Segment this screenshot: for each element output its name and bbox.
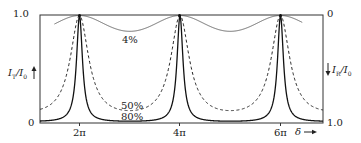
y-axis-label-left: IT/I0 xyxy=(8,68,27,82)
x-tick-6pi: 6π xyxy=(274,128,287,138)
up-arrow-icon xyxy=(32,66,37,79)
curve-label-80: 80% xyxy=(121,112,143,122)
delta-arrow-icon xyxy=(304,130,317,134)
curve-label-4: 4% xyxy=(122,35,138,45)
curve-80-percent xyxy=(40,16,323,122)
x-tick-2pi: 2π xyxy=(73,128,86,138)
left-tick-bottom: 0 xyxy=(28,118,34,128)
down-arrow-icon xyxy=(326,63,331,76)
x-tick-4pi: 4π xyxy=(173,128,186,138)
y-axis-label-right: IR/I0 xyxy=(332,65,352,79)
curve-label-50: 50% xyxy=(121,101,143,111)
right-tick-top: 0 xyxy=(327,9,333,19)
left-tick-top: 1.0 xyxy=(13,9,29,19)
right-tick-bottom: 1.0 xyxy=(327,118,343,128)
x-axis-label: δ xyxy=(295,127,301,137)
airy-transmission-chart xyxy=(0,0,361,143)
